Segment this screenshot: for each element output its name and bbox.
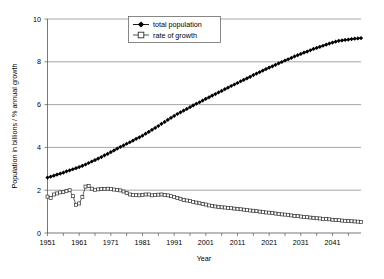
- data-point-marker: [179, 197, 182, 200]
- data-point-marker: [81, 196, 84, 199]
- data-point-marker: [141, 194, 144, 197]
- data-point-marker: [220, 206, 223, 209]
- data-point-marker: [208, 204, 211, 207]
- data-point-marker: [151, 194, 154, 197]
- data-point-marker: [299, 215, 302, 218]
- data-point-marker: [201, 202, 204, 205]
- data-point-marker: [185, 199, 188, 202]
- population-growth-chart: 10 8 6 4 2 0 195119611971198119912001201…: [0, 0, 384, 279]
- data-point-marker: [90, 187, 93, 190]
- data-point-marker: [236, 207, 239, 210]
- x-tick-label: 2041: [325, 238, 341, 247]
- y-axis-title: Population in billions / % annual growth: [10, 63, 19, 188]
- legend-label-growth: rate of growth: [153, 31, 197, 40]
- data-point-marker: [315, 217, 318, 220]
- data-point-marker: [296, 215, 299, 218]
- data-point-marker: [132, 193, 135, 196]
- data-point-marker: [116, 188, 119, 191]
- data-point-marker: [71, 195, 74, 198]
- data-point-marker: [135, 193, 138, 196]
- data-point-marker: [233, 207, 236, 210]
- x-tick-label: 1961: [71, 238, 87, 247]
- x-tick-label: 1981: [135, 238, 151, 247]
- data-point-marker: [94, 188, 97, 191]
- data-point-marker: [128, 193, 131, 196]
- data-point-marker: [360, 220, 363, 223]
- data-point-marker: [242, 208, 245, 211]
- y-tick-label: 6: [37, 100, 41, 109]
- data-point-marker: [255, 210, 258, 213]
- data-point-marker: [144, 193, 147, 196]
- data-point-marker: [176, 196, 179, 199]
- data-point-marker: [122, 190, 125, 193]
- data-point-marker: [211, 205, 214, 208]
- data-point-marker: [306, 216, 309, 219]
- data-point-marker: [356, 220, 359, 223]
- x-tick-label: 2021: [261, 238, 277, 247]
- data-point-marker: [280, 213, 283, 216]
- chart-legend: total population rate of growth: [129, 17, 221, 43]
- data-point-marker: [230, 207, 233, 210]
- data-point-marker: [271, 212, 274, 215]
- data-point-marker: [274, 212, 277, 215]
- data-point-marker: [217, 205, 220, 208]
- data-point-marker: [147, 193, 150, 196]
- data-point-marker: [331, 218, 334, 221]
- data-point-marker: [261, 211, 264, 214]
- data-point-marker: [46, 195, 49, 198]
- data-point-marker: [303, 215, 306, 218]
- x-tick-label: 1971: [103, 238, 119, 247]
- data-point-marker: [87, 185, 90, 188]
- data-point-marker: [334, 218, 337, 221]
- x-tick-label: 2001: [198, 238, 214, 247]
- data-point-marker: [189, 200, 192, 203]
- chart-canvas: 10 8 6 4 2 0 195119611971198119912001201…: [0, 0, 384, 279]
- data-point-marker: [204, 203, 207, 206]
- data-point-marker: [265, 211, 268, 214]
- data-point-marker: [337, 219, 340, 222]
- data-point-marker: [65, 190, 68, 193]
- data-point-marker: [268, 211, 271, 214]
- data-point-marker: [173, 196, 176, 199]
- data-point-marker: [318, 217, 321, 220]
- data-point-marker: [113, 188, 116, 191]
- y-tick-label: 10: [33, 15, 41, 24]
- data-point-marker: [157, 193, 160, 196]
- data-point-marker: [258, 210, 261, 213]
- data-point-marker: [246, 209, 249, 212]
- data-point-marker: [109, 188, 112, 191]
- data-point-marker: [59, 191, 62, 194]
- data-point-marker: [56, 192, 59, 195]
- data-point-marker: [284, 213, 287, 216]
- open-square-icon: [138, 32, 144, 38]
- x-axis-title: Year: [197, 254, 212, 263]
- data-point-marker: [195, 201, 198, 204]
- data-point-marker: [347, 220, 350, 223]
- y-tick-label: 4: [37, 143, 41, 152]
- data-point-marker: [287, 214, 290, 217]
- x-tick-label: 1951: [40, 238, 56, 247]
- y-tick-label: 8: [37, 57, 41, 66]
- x-tick-label: 2011: [230, 238, 245, 247]
- data-point-marker: [223, 206, 226, 209]
- data-point-marker: [62, 190, 65, 193]
- data-point-marker: [239, 208, 242, 211]
- data-point-marker: [249, 209, 252, 212]
- data-point-marker: [350, 220, 353, 223]
- data-point-marker: [103, 187, 106, 190]
- legend-label-population: total population: [153, 20, 202, 29]
- data-point-marker: [78, 202, 81, 205]
- data-point-marker: [97, 188, 100, 191]
- data-point-marker: [125, 191, 128, 194]
- data-point-marker: [170, 195, 173, 198]
- data-point-marker: [227, 206, 230, 209]
- data-point-marker: [106, 187, 109, 190]
- data-point-marker: [293, 214, 296, 217]
- legend-entry-rate-of-growth: rate of growth: [133, 31, 197, 40]
- data-point-marker: [214, 205, 217, 208]
- data-point-marker: [163, 194, 166, 197]
- data-point-marker: [100, 187, 103, 190]
- y-tick-label: 0: [37, 229, 41, 238]
- data-point-marker: [154, 194, 157, 197]
- data-point-marker: [312, 216, 315, 219]
